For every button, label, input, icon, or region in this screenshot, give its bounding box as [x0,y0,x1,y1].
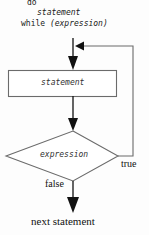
edge-label-true: true [121,158,137,169]
node-decision-label: expression [40,150,88,159]
node-next-statement-label: next statement [31,215,95,227]
flowchart-graphics [0,0,149,235]
node-statement-label: statement [41,78,84,87]
arrowhead-decision-down [68,118,78,131]
arrowhead-false-down [67,197,79,213]
arrowhead-feedback-left [75,42,84,51]
flowchart-figure: do statement while (expression) statemen… [0,0,149,235]
edge-label-false: false [45,178,64,189]
arrowhead-entry-down [68,56,78,70]
